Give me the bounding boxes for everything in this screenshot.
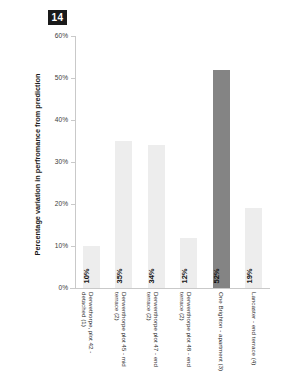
bar[interactable]: 12% [180,238,197,288]
y-tick-mark [71,36,75,37]
y-tick-mark [71,120,75,121]
y-tick-mark [71,162,75,163]
y-tick: 50% [35,73,75,83]
x-axis-label: Derwethorpe, plot 42 - detached (1) [80,292,95,378]
bar-slot: 34% [148,36,165,288]
bar-value-label: 35% [115,269,124,284]
y-tick-label: 30% [55,157,68,167]
x-axis-label: Derwenthorpe plot 45 - mid terrace (2) [113,292,128,378]
y-tick-mark [71,288,75,289]
y-tick-mark [71,78,75,79]
y-tick-mark [71,246,75,247]
bar-slot: 19% [245,36,262,288]
bar[interactable]: 35% [115,141,132,288]
y-tick-label: 40% [55,115,68,125]
y-tick-label: 10% [55,241,68,251]
y-axis-line [75,36,76,288]
x-axis-label: Derwenthorpe plot 47 - end terrace (2) [145,292,160,378]
bar-value-label: 12% [180,269,189,284]
bar-value-label: 10% [82,269,91,284]
bar[interactable]: 10% [83,246,100,288]
y-tick-label: 60% [55,31,68,41]
y-tick: 10% [35,241,75,251]
bar[interactable]: 52% [213,70,230,288]
bar-slot: 12% [180,36,197,288]
y-tick-label: 0% [58,283,68,293]
y-tick: 30% [35,157,75,167]
y-tick-label: 20% [55,199,68,209]
bar-slot: 10% [83,36,100,288]
bar-value-label: 19% [245,269,254,284]
plot-area: 0%10%20%30%40%50%60% 10%35%34%12%52%19% … [75,36,270,288]
y-tick: 40% [35,115,75,125]
y-tick: 0% [35,283,75,293]
x-axis-label: Derwenthorpe plot 48 - end terrace (2) [178,292,193,378]
bar[interactable]: 19% [245,208,262,288]
y-tick: 60% [35,31,75,41]
y-tick-mark [71,204,75,205]
x-axis-line [70,288,270,289]
bar-value-label: 34% [147,269,156,284]
bar-slot: 35% [115,36,132,288]
figure-container: 14 Percentage variation in perfromance f… [0,0,296,379]
y-tick: 20% [35,199,75,209]
x-axis-label: Lancaster - end terrace (4) [250,292,257,378]
figure-number-badge: 14 [48,10,67,25]
y-tick-label: 50% [55,73,68,83]
bar-slot: 52% [213,36,230,288]
bar[interactable]: 34% [148,145,165,288]
x-axis-label: One Brighton - apartment (3) [218,292,225,378]
bar-value-label: 52% [212,269,221,284]
